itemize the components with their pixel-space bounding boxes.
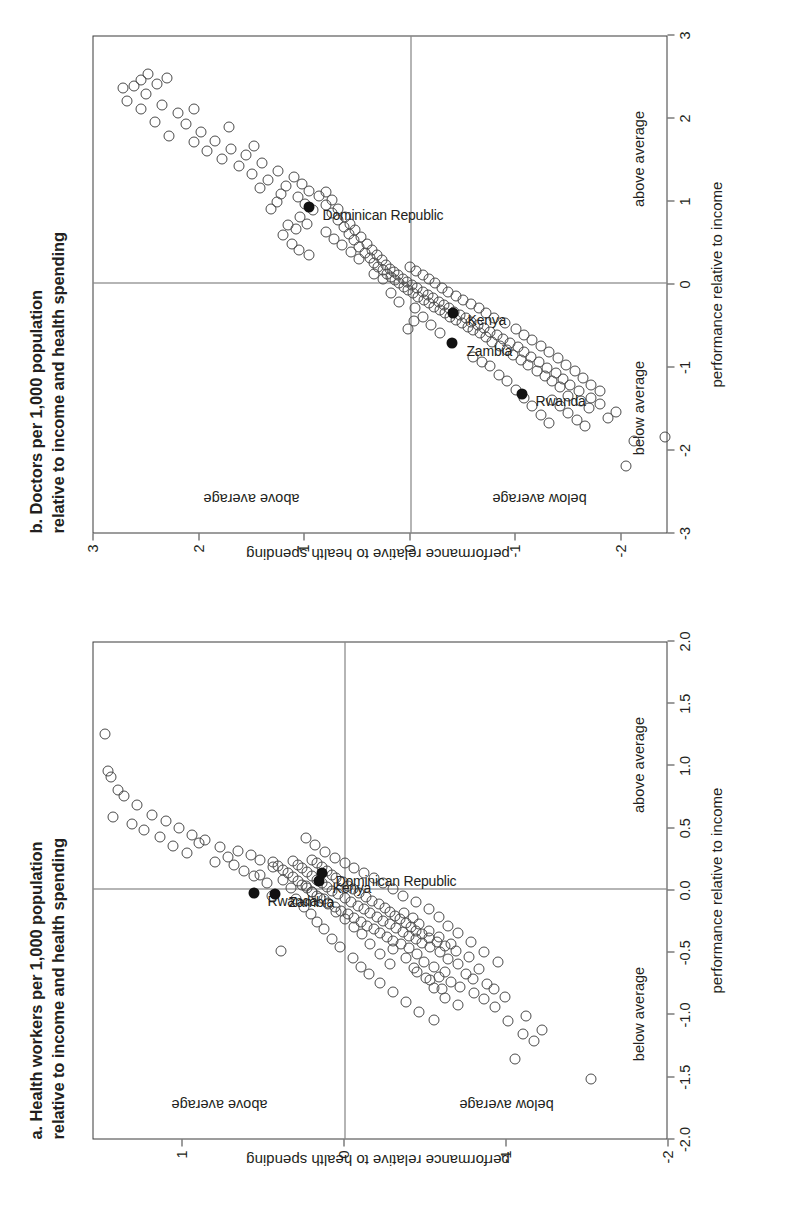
scatter-point bbox=[214, 841, 225, 852]
scatter-point bbox=[579, 420, 590, 431]
scatter-point bbox=[320, 186, 331, 197]
scatter-point bbox=[138, 824, 149, 835]
scatter-point bbox=[149, 116, 160, 127]
scatter-point bbox=[246, 168, 257, 179]
scatter-point bbox=[300, 832, 311, 843]
scatter-point bbox=[528, 1035, 539, 1046]
scatter-point bbox=[131, 799, 142, 810]
panel-a-title-line1: a. Health workers per 1,000 population bbox=[26, 841, 44, 1139]
x-tick bbox=[667, 117, 674, 118]
scatter-point bbox=[478, 993, 489, 1004]
scatter-point bbox=[135, 103, 146, 114]
y-tick bbox=[409, 533, 410, 540]
scatter-point bbox=[348, 921, 359, 932]
scatter-point bbox=[301, 218, 312, 229]
x-tick-label: -2.0 bbox=[676, 1127, 692, 1152]
highlighted-point-kenya bbox=[447, 307, 458, 318]
x-tick-label: 0.5 bbox=[676, 818, 692, 838]
x-tick-label: 0.0 bbox=[676, 880, 692, 900]
x-tick bbox=[667, 827, 674, 828]
scatter-point bbox=[287, 855, 298, 866]
panel-b-x-axis: performance relative to income -3-2-1012… bbox=[667, 35, 737, 533]
scatter-point bbox=[186, 829, 197, 840]
y-tick bbox=[303, 533, 304, 540]
scatter-point bbox=[452, 927, 463, 938]
x-tick bbox=[667, 1076, 674, 1077]
scatter-point bbox=[543, 417, 554, 428]
y-tick-label: 2 bbox=[190, 544, 206, 552]
scatter-point bbox=[410, 896, 421, 907]
point-label-dominican-republic: Dominican Republic bbox=[322, 206, 443, 222]
scatter-point bbox=[232, 845, 243, 856]
scatter-point bbox=[463, 951, 474, 962]
x-tick-label: -1 bbox=[676, 361, 692, 374]
scatter-point bbox=[439, 966, 450, 977]
scatter-point bbox=[201, 145, 212, 156]
x-tick-label: 2.0 bbox=[676, 631, 692, 651]
scatter-point bbox=[188, 136, 199, 147]
scatter-point bbox=[502, 1015, 513, 1026]
x-tick bbox=[667, 1014, 674, 1015]
x-tick bbox=[667, 532, 674, 533]
scatter-point bbox=[478, 946, 489, 957]
scatter-point bbox=[154, 831, 165, 842]
scatter-point bbox=[433, 911, 444, 922]
scatter-point bbox=[363, 968, 374, 979]
scatter-point bbox=[387, 986, 398, 997]
scatter-point bbox=[265, 203, 276, 214]
x-tick bbox=[667, 702, 674, 703]
scatter-point bbox=[156, 99, 167, 110]
panel-b-title: b. Doctors per 1,000 population relative… bbox=[24, 0, 69, 605]
scatter-point bbox=[140, 88, 151, 99]
x-tick-label: -0.5 bbox=[676, 940, 692, 965]
scatter-point bbox=[99, 728, 110, 739]
scatter-point bbox=[309, 839, 320, 850]
scatter-point bbox=[501, 375, 512, 386]
panel-a-title: a. Health workers per 1,000 population r… bbox=[24, 606, 69, 1211]
scatter-point bbox=[238, 865, 249, 876]
x-tick-label: 3 bbox=[676, 31, 692, 39]
scatter-point bbox=[334, 941, 345, 952]
x-tick bbox=[667, 889, 674, 890]
scatter-point bbox=[303, 249, 314, 260]
scatter-point bbox=[460, 968, 471, 979]
scatter-point bbox=[445, 938, 456, 949]
x-tick bbox=[667, 640, 674, 641]
scatter-point bbox=[195, 126, 206, 137]
panel-b: b. Doctors per 1,000 population relative… bbox=[0, 0, 805, 605]
scatter-point bbox=[628, 435, 639, 446]
a-x-below-average-label: below average bbox=[630, 966, 646, 1060]
scatter-point bbox=[385, 287, 396, 298]
x-tick-label: 1.0 bbox=[676, 755, 692, 775]
scatter-point bbox=[181, 847, 192, 858]
panel-b-y-axis: performance relative to health spending … bbox=[92, 533, 667, 605]
scatter-point bbox=[112, 784, 123, 795]
scatter-point bbox=[484, 361, 495, 372]
scatter-point bbox=[151, 78, 162, 89]
scatter-point bbox=[445, 976, 456, 987]
scatter-point bbox=[585, 1073, 596, 1084]
scatter-point bbox=[374, 977, 385, 988]
y-tick-label: 3 bbox=[84, 544, 100, 552]
x-tick-label: -1.5 bbox=[676, 1064, 692, 1089]
scatter-point bbox=[413, 1006, 424, 1017]
scatter-point bbox=[393, 296, 404, 307]
scatter-point bbox=[161, 72, 172, 83]
scatter-point bbox=[209, 856, 220, 867]
scatter-point bbox=[397, 890, 408, 901]
scatter-point bbox=[240, 149, 251, 160]
scatter-point bbox=[320, 226, 331, 237]
scatter-point bbox=[329, 852, 340, 863]
scatter-point bbox=[436, 983, 447, 994]
scatter-point bbox=[428, 1014, 439, 1025]
panel-a: a. Health workers per 1,000 population r… bbox=[0, 606, 805, 1211]
scatter-point bbox=[142, 68, 153, 79]
y-tick bbox=[198, 533, 199, 540]
scatter-point bbox=[404, 261, 415, 272]
scatter-point bbox=[254, 182, 265, 193]
scatter-point bbox=[374, 948, 385, 959]
scatter-point bbox=[411, 966, 422, 977]
scatter-point bbox=[167, 840, 178, 851]
x-tick bbox=[667, 283, 674, 284]
y-tick bbox=[343, 1139, 344, 1146]
